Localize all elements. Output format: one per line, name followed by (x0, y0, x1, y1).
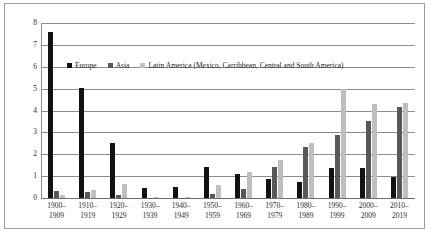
bar-latin-america (278, 160, 283, 198)
bar-asia (272, 167, 277, 198)
bar-europe (266, 179, 271, 198)
y-axis-labels: 012345678 (9, 23, 37, 198)
legend-swatch-icon (140, 63, 145, 68)
plot-area (41, 23, 415, 198)
bar-latin-america (309, 143, 314, 198)
x-tick-label: 1940– 1949 (166, 201, 197, 220)
bar-asia (85, 192, 90, 198)
bar-asia (335, 135, 340, 198)
bar-group (259, 23, 290, 198)
x-tick-label: 1980– 1989 (290, 201, 321, 220)
y-tick-label: 6 (15, 63, 37, 71)
bar-group (72, 23, 103, 198)
bar-latin-america (216, 185, 221, 198)
y-tick-label: 5 (15, 85, 37, 93)
legend-swatch-icon (67, 63, 72, 68)
bar-europe (391, 177, 396, 198)
bar-europe (204, 167, 209, 198)
bar-europe (110, 143, 115, 198)
bar-group (384, 23, 415, 198)
bar-group (322, 23, 353, 198)
bar-europe (79, 88, 84, 198)
x-tick-label: 1910– 1919 (72, 201, 103, 220)
x-tick-label: 2010– 2019 (384, 201, 415, 220)
bar-europe (48, 32, 53, 198)
legend-entry: Latin America (Mexico, Carribbean, Centr… (140, 62, 343, 70)
bar-asia (303, 147, 308, 198)
chart-frame: 012345678 1900– 19091910– 19191920– 1929… (4, 3, 425, 229)
y-tick-label: 8 (15, 19, 37, 27)
y-tick-label: 1 (15, 172, 37, 180)
legend-entry: Asia (108, 62, 130, 70)
bar-asia (116, 195, 121, 198)
gridline (41, 198, 415, 199)
bar-latin-america (341, 89, 346, 198)
legend-entry: Europe (67, 62, 97, 70)
x-tick-label: 1990– 1999 (322, 201, 353, 220)
x-tick-label: 1930– 1939 (135, 201, 166, 220)
legend-label: Europe (75, 62, 97, 70)
y-tick-label: 2 (15, 150, 37, 158)
y-tick-label: 0 (15, 194, 37, 202)
bar-latin-america (372, 104, 377, 198)
bar-group (290, 23, 321, 198)
bar-latin-america (185, 197, 190, 198)
x-tick-label: 1920– 1929 (103, 201, 134, 220)
bar-europe (297, 182, 302, 198)
legend-label: Latin America (Mexico, Carribbean, Centr… (148, 62, 343, 70)
bar-latin-america (122, 184, 127, 198)
bar-asia (54, 191, 59, 198)
bar-latin-america (154, 197, 159, 198)
x-tick-label: 2000– 2009 (353, 201, 384, 220)
bar-asia (366, 121, 371, 198)
y-tick-label: 3 (15, 128, 37, 136)
legend-label: Asia (116, 62, 130, 70)
bar-europe (329, 168, 334, 198)
bar-europe (360, 168, 365, 198)
bar-asia (241, 189, 246, 198)
bar-group (197, 23, 228, 198)
bar-asia (397, 107, 402, 198)
legend-swatch-icon (108, 63, 113, 68)
bar-latin-america (247, 172, 252, 198)
x-axis-labels: 1900– 19091910– 19191920– 19291930– 1939… (41, 201, 415, 229)
bar-group (41, 23, 72, 198)
bar-europe (173, 187, 178, 198)
x-tick-label: 1970– 1979 (259, 201, 290, 220)
y-tick-label: 7 (15, 41, 37, 49)
chart-plot-wrapper: 012345678 1900– 19091910– 19191920– 1929… (5, 4, 424, 228)
bar-latin-america (60, 195, 65, 198)
bar-group (135, 23, 166, 198)
x-tick-label: 1900– 1909 (41, 201, 72, 220)
bar-group (166, 23, 197, 198)
bar-asia (210, 194, 215, 198)
bar-europe (235, 174, 240, 198)
bar-europe (142, 188, 147, 199)
y-tick-label: 4 (15, 107, 37, 115)
x-tick-label: 1960– 1969 (228, 201, 259, 220)
bar-group (228, 23, 259, 198)
x-tick-label: 1950– 1959 (197, 201, 228, 220)
bar-group (103, 23, 134, 198)
bar-latin-america (403, 103, 408, 198)
bar-group (353, 23, 384, 198)
chart-legend: EuropeAsiaLatin America (Mexico, Carribb… (67, 62, 344, 70)
bar-latin-america (91, 190, 96, 198)
